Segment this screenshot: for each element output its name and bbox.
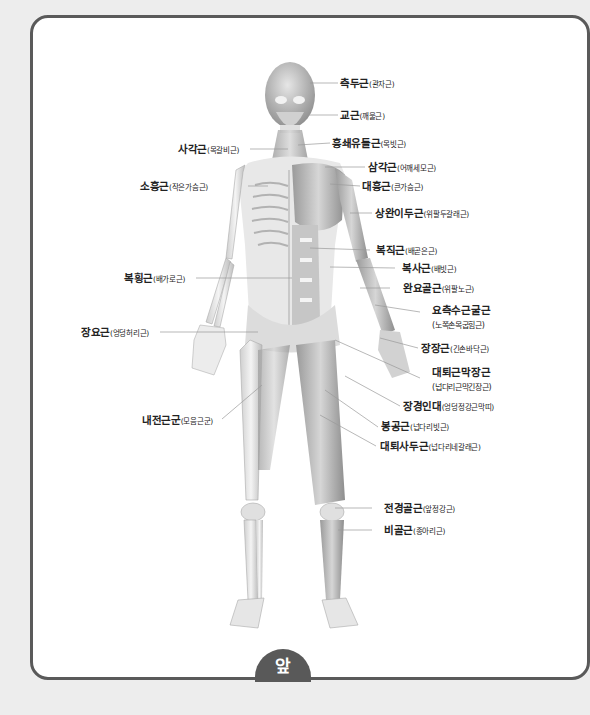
skull <box>265 62 315 133</box>
label-flexor-carpi-radialis: 요측수근굴근(노쪽손목굽힘근) <box>432 304 490 332</box>
label-peroneus: 비골근(종아리근) <box>384 524 445 538</box>
label-psoas-major: 장요근(엉덩허리근) <box>81 326 149 340</box>
label-pectoralis-major: 대흉근(큰가슴근) <box>362 180 423 194</box>
label-external-oblique: 복사근(배빗근) <box>402 262 456 276</box>
label-palmaris-longus: 장장근(긴손바닥근) <box>421 342 489 356</box>
label-temporalis: 측두근(관자근) <box>340 77 394 91</box>
label-sartorius: 봉공근(넙다리빗근) <box>381 420 449 434</box>
label-masseter: 교근(깨물근) <box>340 109 385 123</box>
label-iliotibial-band: 장경인대(엉덩정강근막띠) <box>403 400 494 414</box>
label-biceps-brachii: 상완이두근(위팔두갈래근) <box>375 207 469 221</box>
label-tensor-fasciae-latae: 대퇴근막장근(넙다리근막긴장근) <box>432 366 491 394</box>
label-scalene: 사각근(목갈비근) <box>178 143 239 157</box>
label-pectoralis-minor: 소흉근(작은가슴근) <box>140 180 208 194</box>
label-brachioradialis: 완요골근(위팔노근) <box>403 282 474 296</box>
label-transversus-abdominis: 복횡근(배가로근) <box>124 272 185 286</box>
label-rectus-abdominis: 복직근(배곧은근) <box>376 244 437 258</box>
label-tibialis-anterior: 전경골근(앞정강근) <box>384 502 455 516</box>
label-deltoid: 삼각근(어깨세모근) <box>368 161 436 175</box>
label-quadriceps: 대퇴사두근(넙다리네갈래근) <box>380 440 481 454</box>
label-adductors: 내전근군(모음근군) <box>142 414 213 428</box>
left-arm-skeleton <box>192 165 245 375</box>
label-sternocleidomastoid: 흉쇄유돌근(목빗근) <box>332 137 406 151</box>
right-arm-muscles <box>335 168 410 378</box>
legs <box>230 340 358 628</box>
